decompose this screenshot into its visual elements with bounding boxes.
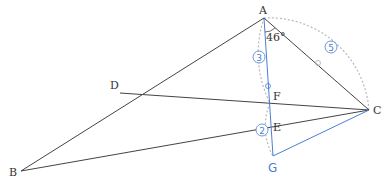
svg-text:5: 5 <box>328 43 334 53</box>
svg-text:2: 2 <box>259 126 265 136</box>
step-marker-2: 2 <box>256 124 268 136</box>
point-label-B: B <box>9 166 17 179</box>
point-label-G: G <box>268 161 277 175</box>
point-label-A: A <box>258 4 268 17</box>
point-label-D: D <box>110 79 119 92</box>
step-marker-3: 3 <box>253 51 265 63</box>
segment-DC <box>120 93 369 110</box>
geometry-diagram: 3 5 2 46° A B C D F E G <box>0 0 388 181</box>
svg-text:3: 3 <box>256 53 262 63</box>
point-label-E: E <box>273 121 281 134</box>
angle-label-A: 46° <box>266 31 286 44</box>
segment-BC <box>21 110 369 171</box>
step-marker-5: 5 <box>325 41 337 53</box>
segment-GC <box>273 110 369 156</box>
point-label-C: C <box>373 104 381 117</box>
point-label-F: F <box>273 90 281 103</box>
